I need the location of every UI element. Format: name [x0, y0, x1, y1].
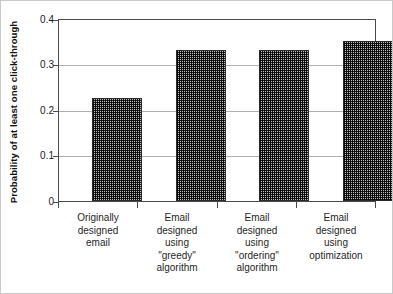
- x-category-label-3: Email designed using optimization: [293, 212, 379, 262]
- x-category-label-0: Originally designed email: [55, 212, 141, 250]
- x-category-line: designed: [134, 225, 220, 238]
- bar-ordering-algorithm: [259, 50, 309, 201]
- plot-area: [58, 19, 376, 202]
- bar-optimization: [343, 41, 393, 201]
- x-category-label-2: Email designed using "ordering" algorith…: [214, 212, 300, 275]
- x-category-line: algorithm: [134, 262, 220, 275]
- x-category-line: using: [134, 237, 220, 250]
- x-category-line: Email: [214, 212, 300, 225]
- y-tick-label-2: 0.2: [20, 106, 54, 116]
- x-category-line: email: [55, 237, 141, 250]
- y-tick-label-1: 0.1: [20, 151, 54, 161]
- x-category-line: designed: [214, 225, 300, 238]
- x-tick-mark-1: [137, 202, 138, 208]
- bar-chart-figure: Probability of at least one click-throug…: [0, 0, 393, 294]
- x-category-label-1: Email designed using "greedy" algorithm: [134, 212, 220, 275]
- x-tick-mark-2: [217, 202, 218, 208]
- x-tick-mark-3: [296, 202, 297, 208]
- x-category-line: using: [293, 237, 379, 250]
- x-category-line: algorithm: [214, 262, 300, 275]
- y-tick-label-3: 0.3: [20, 60, 54, 70]
- x-category-line: Email: [134, 212, 220, 225]
- x-category-line: Originally: [55, 212, 141, 225]
- x-category-line: "ordering": [214, 250, 300, 263]
- bar-originally-designed-email: [92, 98, 142, 201]
- x-category-line: designed: [293, 225, 379, 238]
- y-axis-tick-labels: 0 0.1 0.2 0.3 0.4: [15, 1, 54, 294]
- x-category-line: Email: [293, 212, 379, 225]
- y-tick-label-0: 0: [20, 197, 54, 207]
- x-tick-mark-0: [58, 202, 59, 208]
- x-category-line: "greedy": [134, 250, 220, 263]
- x-category-line: designed: [55, 225, 141, 238]
- y-tick-label-4: 0.4: [20, 15, 54, 25]
- x-category-line: using: [214, 237, 300, 250]
- x-tick-mark-4: [375, 202, 376, 208]
- x-category-line: optimization: [293, 250, 379, 263]
- bar-greedy-algorithm: [176, 50, 226, 201]
